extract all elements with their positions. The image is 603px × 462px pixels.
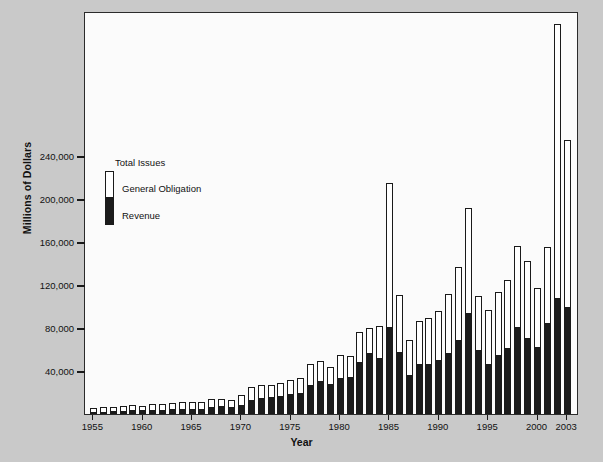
bar-revenue-segment <box>238 405 245 414</box>
bar-revenue-segment <box>208 407 215 414</box>
x-axis-tick <box>388 415 389 420</box>
y-axis-tick <box>77 328 85 330</box>
bar-1973 <box>268 385 275 414</box>
bar-revenue-segment <box>100 412 107 414</box>
bar-revenue-segment <box>524 338 531 414</box>
y-axis-tick <box>77 242 85 244</box>
bar-1988 <box>416 321 423 414</box>
legend-label-general-obligation: General Obligation <box>122 183 201 194</box>
x-axis-label: 2003 <box>546 421 586 432</box>
bar-1958 <box>120 406 127 414</box>
bar-revenue-segment <box>386 327 393 414</box>
bar-revenue-segment <box>495 355 502 414</box>
y-axis-label: 40,000 <box>45 367 74 377</box>
bar-revenue-segment <box>347 377 354 414</box>
bar-1974 <box>277 383 284 414</box>
x-axis-tick <box>438 415 439 420</box>
bar-revenue-segment <box>406 375 413 414</box>
x-axis-tick <box>191 415 192 420</box>
bar-revenue-segment <box>287 394 294 414</box>
bar-1964 <box>179 402 186 414</box>
bar-1972 <box>258 385 265 414</box>
bar-revenue-segment <box>337 378 344 414</box>
bar-revenue-segment <box>416 364 423 415</box>
bar-1976 <box>297 378 304 414</box>
bar-1979 <box>327 367 334 414</box>
x-axis-tick <box>92 415 93 420</box>
bar-1955 <box>90 408 97 414</box>
bar-revenue-segment <box>564 307 571 414</box>
bar-1959 <box>129 405 136 414</box>
bar-1978 <box>317 361 324 414</box>
bar-1969 <box>228 400 235 414</box>
x-axis-tick <box>290 415 291 420</box>
bar-1965 <box>189 402 196 414</box>
bar-1960 <box>139 406 146 414</box>
bar-revenue-segment <box>169 409 176 414</box>
bar-revenue-segment <box>159 410 166 414</box>
bar-1995 <box>485 310 492 414</box>
bar-1966 <box>198 402 205 414</box>
bar-revenue-segment <box>465 313 472 414</box>
bar-revenue-segment <box>120 411 127 414</box>
bar-1996 <box>495 292 502 414</box>
bar-1971 <box>248 387 255 414</box>
bar-1993 <box>465 208 472 414</box>
bar-revenue-segment <box>228 407 235 414</box>
bar-revenue-segment <box>129 410 136 414</box>
bar-1981 <box>347 356 354 414</box>
legend-label-revenue: Revenue <box>122 210 160 221</box>
bar-1991 <box>445 294 452 414</box>
legend-swatch <box>105 171 114 225</box>
y-axis-tick <box>77 371 85 373</box>
y-axis-tick <box>77 199 85 201</box>
bar-revenue-segment <box>277 396 284 414</box>
bar-1963 <box>169 403 176 414</box>
bar-revenue-segment <box>366 353 373 414</box>
chart-figure: Millions of Dollars 40,00080,000120,0001… <box>0 0 603 462</box>
bar-1970 <box>238 395 245 414</box>
bar-revenue-segment <box>435 360 442 414</box>
x-axis-label: 1965 <box>171 421 211 432</box>
bar-revenue-segment <box>504 348 511 414</box>
bar-1956 <box>100 407 107 414</box>
x-axis-label: 1975 <box>270 421 310 432</box>
bar-revenue-segment <box>514 327 521 414</box>
bar-revenue-segment <box>327 384 334 414</box>
bar-revenue-segment <box>218 406 225 414</box>
y-axis-label: 200,000 <box>40 195 74 205</box>
bar-revenue-segment <box>554 298 561 414</box>
bar-revenue-segment <box>149 410 156 414</box>
bar-revenue-segment <box>139 410 146 414</box>
y-axis-tick <box>77 156 85 158</box>
bar-2000 <box>534 288 541 414</box>
bar-revenue-segment <box>485 364 492 415</box>
x-axis-label: 1985 <box>368 421 408 432</box>
bar-revenue-segment <box>258 398 265 414</box>
bar-2003 <box>564 140 571 414</box>
bar-1990 <box>435 311 442 414</box>
bar-1975 <box>287 380 294 414</box>
bar-revenue-segment <box>534 347 541 414</box>
bar-revenue-segment <box>189 409 196 414</box>
bar-revenue-segment <box>248 400 255 415</box>
bar-2001 <box>544 247 551 414</box>
bar-2002 <box>554 24 561 414</box>
x-axis-label: 1955 <box>72 421 112 432</box>
bar-1985 <box>386 183 393 414</box>
bar-revenue-segment <box>297 393 304 414</box>
legend-title: Total Issues <box>115 157 165 168</box>
bar-1997 <box>504 280 511 414</box>
bar-1986 <box>396 295 403 414</box>
bar-revenue-segment <box>376 358 383 414</box>
bar-revenue-segment <box>356 362 363 414</box>
bar-revenue-segment <box>110 411 117 414</box>
bar-1992 <box>455 267 462 414</box>
bar-revenue-segment <box>307 385 314 414</box>
x-axis-tick <box>142 415 143 420</box>
x-axis-label: 1970 <box>220 421 260 432</box>
bar-1994 <box>475 296 482 414</box>
bar-revenue-segment <box>445 353 452 414</box>
y-axis-title: Millions of Dollars <box>21 128 33 248</box>
bar-1999 <box>524 261 531 414</box>
